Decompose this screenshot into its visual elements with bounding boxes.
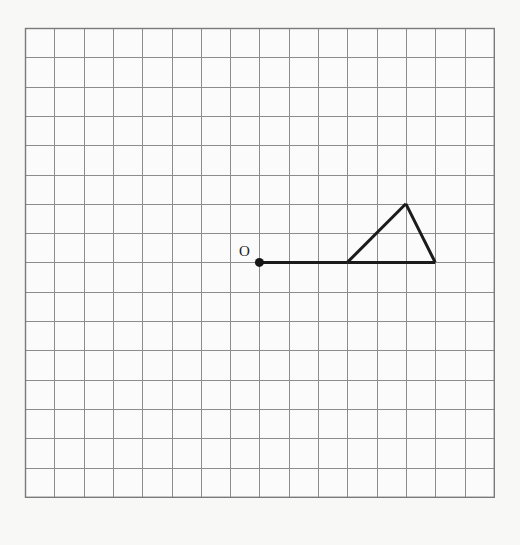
figure-labels: O [239,243,250,259]
grid-figure-svg: O [0,0,520,545]
point-marker-o [255,258,264,267]
point-label-o: O [239,243,250,259]
figure-points [255,258,264,267]
figure-canvas: O [0,0,520,545]
